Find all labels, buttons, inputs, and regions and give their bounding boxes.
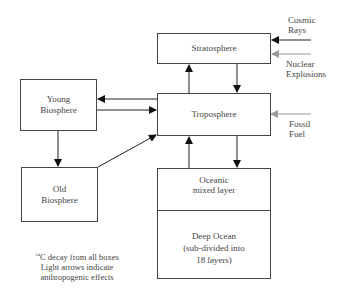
ocean-box: Oceanic mixed layer Deep Ocean (sub-divi… xyxy=(157,168,271,279)
stratosphere-box: Stratosphere xyxy=(157,33,271,64)
young-biosphere-label: Young Biosphere xyxy=(40,94,77,116)
deep-ocean-label: Deep Ocean (sub-divided into 18 layers) xyxy=(183,230,245,266)
note-line-1: 14C decay from all boxes xyxy=(22,252,132,262)
legend-note: 14C decay from all boxes Light arrows in… xyxy=(22,252,132,282)
nuclear-explosions-label: Nuclear Explosions xyxy=(286,59,326,79)
young-biosphere-box: Young Biosphere xyxy=(20,79,97,131)
stratosphere-label: Stratosphere xyxy=(192,43,237,54)
fossil-fuel-label: Fossil Fuel xyxy=(289,119,311,139)
troposphere-box: Troposphere xyxy=(157,93,271,136)
cosmic-rays-label: Cosmic Rays xyxy=(288,15,316,35)
note-line-3: anthropogenic effects xyxy=(22,272,132,282)
troposphere-label: Troposphere xyxy=(191,109,236,120)
oceanic-mixed-layer: Oceanic mixed layer xyxy=(158,169,270,211)
deep-ocean: Deep Ocean (sub-divided into 18 layers) xyxy=(158,217,270,278)
oceanic-mixed-layer-label: Oceanic mixed layer xyxy=(193,175,236,195)
old-biosphere-label: Old Biosphere xyxy=(41,184,78,206)
old-biosphere-box: Old Biosphere xyxy=(21,167,98,222)
arrow-old-to-tropo xyxy=(98,135,156,167)
note-line-2: Light arrows indicate xyxy=(22,262,132,272)
